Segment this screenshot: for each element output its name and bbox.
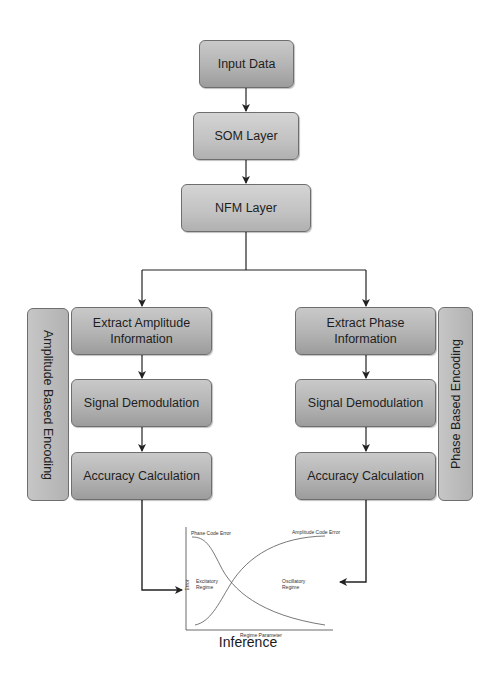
- nfm-layer-label: NFM Layer: [215, 200, 277, 216]
- input-data-label: Input Data: [218, 56, 276, 72]
- left-accuracy-calculation-node: Accuracy Calculation: [71, 452, 212, 500]
- left-signal-demodulation-label: Signal Demodulation: [84, 395, 199, 411]
- amplitude-encoding-label: Amplitude Based Encoding: [41, 329, 55, 479]
- phase-encoding-group: Phase Based Encoding: [438, 307, 473, 501]
- left-accuracy-calculation-label: Accuracy Calculation: [83, 468, 200, 484]
- input-data-node: Input Data: [199, 40, 294, 88]
- right-signal-demodulation-label: Signal Demodulation: [308, 395, 423, 411]
- som-layer-node: SOM Layer: [193, 112, 299, 160]
- extract-amplitude-node: Extract Amplitude Information: [71, 307, 212, 355]
- right-signal-demodulation-node: Signal Demodulation: [295, 379, 436, 427]
- oscillatory-regime-label: Oscillatory Regime: [282, 578, 312, 590]
- amplitude-code-error-label: Amplitude Code Error: [292, 529, 340, 535]
- flowchart-canvas: Input Data SOM Layer NFM Layer Amplitude…: [0, 0, 496, 682]
- left-signal-demodulation-node: Signal Demodulation: [71, 379, 212, 427]
- inference-label: Inference: [0, 634, 496, 650]
- extract-amplitude-label: Extract Amplitude Information: [87, 315, 197, 347]
- error-axis-label: Error: [184, 579, 190, 590]
- phase-encoding-label: Phase Based Encoding: [449, 339, 463, 469]
- nfm-layer-node: NFM Layer: [181, 184, 311, 232]
- extract-phase-node: Extract Phase Information: [295, 307, 436, 355]
- phase-code-error-label: Phase Code Error: [191, 530, 231, 536]
- extract-phase-label: Extract Phase Information: [316, 315, 416, 347]
- som-layer-label: SOM Layer: [214, 128, 277, 144]
- right-accuracy-calculation-node: Accuracy Calculation: [295, 452, 436, 500]
- excitatory-regime-label: Excitatory Regime: [196, 578, 226, 590]
- amplitude-encoding-group: Amplitude Based Encoding: [27, 308, 69, 501]
- right-accuracy-calculation-label: Accuracy Calculation: [307, 468, 424, 484]
